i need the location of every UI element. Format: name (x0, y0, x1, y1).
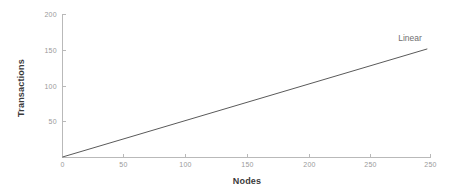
chart-container: 200 150 100 50 0 50 100 150 200 250 250 … (0, 0, 463, 193)
x-tick-label-50: 50 (119, 161, 127, 168)
series-line-linear (63, 49, 428, 157)
x-tick-label-200: 200 (303, 161, 316, 168)
series-annotation-linear: Linear (398, 33, 422, 43)
line-chart: 200 150 100 50 0 50 100 150 200 250 250 … (0, 0, 463, 193)
x-tick-label-100: 100 (179, 161, 192, 168)
x-tick-label-250: 250 (364, 161, 377, 168)
x-tick-label-150: 150 (241, 161, 254, 168)
y-tick-label-200: 200 (44, 11, 57, 18)
x-tick-label-0: 0 (60, 161, 64, 168)
y-tick-label-50: 50 (49, 118, 57, 125)
x-axis-title: Nodes (233, 176, 262, 186)
x-tick-label-end: 250 (424, 161, 437, 168)
y-axis-title: Transactions (16, 59, 26, 117)
y-tick-label-100: 100 (44, 83, 57, 90)
y-tick-label-150: 150 (44, 47, 57, 54)
